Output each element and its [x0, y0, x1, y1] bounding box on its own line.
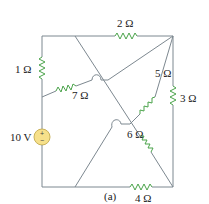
label-7ohm: 7 Ω — [72, 89, 88, 101]
circuit-diagram: + − 2 Ω 1 Ω 7 Ω 5 Ω 3 Ω 6 Ω 4 Ω 10 V (a) — [0, 0, 209, 204]
wire-diag-top-to-6ohm — [75, 36, 140, 136]
label-3ohm: 3 Ω — [180, 92, 196, 104]
source-minus-sign: − — [40, 137, 44, 144]
wire-7ohm-to-hop — [76, 80, 92, 86]
label-2ohm: 2 Ω — [117, 17, 133, 29]
resistor-2ohm — [115, 33, 137, 39]
wire-left-to-7ohm — [42, 91, 56, 97]
label-10v-source: 10 V — [10, 131, 32, 143]
resistor-3ohm — [170, 86, 176, 105]
label-5ohm: 5 Ω — [155, 67, 171, 79]
wire-crossover-hop-1 — [92, 75, 101, 80]
source-plus-sign: + — [40, 130, 44, 137]
label-4ohm: 4 Ω — [135, 192, 151, 204]
label-6ohm: 6 Ω — [127, 128, 143, 140]
resistor-4ohm — [130, 184, 152, 190]
figure-caption: (a) — [104, 190, 117, 203]
wire-bottom-to-hop-2 — [75, 127, 112, 187]
wire-6ohm-to-bottom-right — [151, 152, 173, 187]
resistor-5ohm — [140, 97, 155, 114]
label-1ohm: 1 Ω — [15, 63, 31, 75]
resistor-1ohm — [39, 57, 45, 79]
wire-hop2-to-5ohm — [121, 114, 140, 124]
wire-crossover-hop-2 — [112, 120, 121, 127]
